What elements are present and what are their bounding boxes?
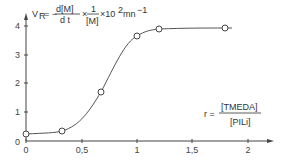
y-tick-label: 4 xyxy=(15,21,20,31)
x-tick-label: 2 xyxy=(245,145,250,155)
ylabel-frac2-den: [M] xyxy=(86,16,99,26)
y-axis-label: V R = − d[M] d t × 1 [M] ×10 2 mn −1 xyxy=(32,4,147,26)
ylabel-unit-exp: −1 xyxy=(137,5,147,15)
data-point xyxy=(222,25,228,31)
x-tick-label: 0,5 xyxy=(76,145,89,155)
chart: 0 0,5 1 1,5 2 0 1 2 3 4 V R = − d[M] d t… xyxy=(0,0,285,160)
data-curve xyxy=(26,28,232,134)
y-tick-label: 1 xyxy=(15,107,20,117)
data-point xyxy=(134,33,140,39)
x-axis-arrow-icon xyxy=(267,139,274,143)
y-tick-label: 2 xyxy=(15,78,20,88)
y-tick-label: 0 xyxy=(15,137,20,147)
x-tick-label: 0 xyxy=(23,145,28,155)
xlabel-lhs: r = xyxy=(204,109,215,119)
ylabel-lhs: V xyxy=(32,9,38,19)
ylabel-frac1-den: d t xyxy=(60,15,71,25)
data-point xyxy=(59,128,65,134)
y-axis-arrow-icon xyxy=(24,13,28,20)
data-point xyxy=(23,131,29,137)
data-point xyxy=(98,89,104,95)
ylabel-frac1-num: d[M] xyxy=(56,4,74,14)
y-tick-label: 3 xyxy=(15,50,20,60)
xlabel-num: [TMEDA] xyxy=(221,102,258,112)
data-point xyxy=(156,26,162,32)
ylabel-times2: ×10 xyxy=(100,9,115,19)
ylabel-frac2-num: 1 xyxy=(91,4,96,14)
x-tick-label: 1 xyxy=(134,145,139,155)
x-axis-label: r = [TMEDA] [PILi] xyxy=(204,102,261,127)
data-points xyxy=(23,25,228,137)
ylabel-unit: mn xyxy=(123,9,136,19)
xlabel-den: [PILi] xyxy=(230,117,251,127)
x-tick-label: 1,5 xyxy=(186,145,199,155)
